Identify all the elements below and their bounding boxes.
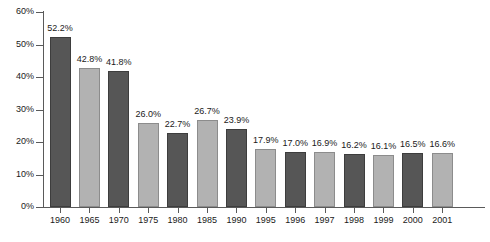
x-axis-tick bbox=[325, 208, 326, 213]
x-axis-tick bbox=[119, 208, 120, 213]
bar-value-label: 23.9% bbox=[219, 116, 253, 125]
x-axis-tick bbox=[60, 208, 61, 213]
y-axis-tick-label: 30% bbox=[0, 105, 34, 115]
bar-value-label: 26.7% bbox=[190, 107, 224, 116]
y-axis-tick-label-text: 30% bbox=[0, 105, 34, 114]
x-axis-tick bbox=[413, 208, 414, 213]
bar bbox=[432, 153, 453, 207]
x-axis-tick bbox=[89, 208, 90, 213]
x-axis-tick bbox=[178, 208, 179, 213]
y-axis-tick-label-text: 0% bbox=[0, 202, 34, 211]
y-axis-tick bbox=[36, 45, 43, 46]
y-axis-tick-label: 50% bbox=[0, 40, 34, 50]
bar bbox=[167, 133, 188, 207]
bar-value-label: 41.8% bbox=[102, 58, 136, 67]
bar bbox=[50, 37, 71, 207]
y-axis-tick bbox=[36, 207, 43, 208]
y-axis-tick-label-text: 10% bbox=[0, 170, 34, 179]
bar bbox=[138, 123, 159, 208]
bar bbox=[226, 129, 247, 207]
y-axis-tick bbox=[36, 77, 43, 78]
y-axis-tick-label-text: 60% bbox=[0, 7, 34, 16]
x-axis-tick bbox=[148, 208, 149, 213]
bar bbox=[79, 68, 100, 207]
bar bbox=[314, 152, 335, 207]
bar bbox=[344, 154, 365, 207]
bar-value-label: 16.6% bbox=[425, 140, 459, 149]
y-axis-tick-label: 20% bbox=[0, 137, 34, 147]
y-axis-tick bbox=[36, 110, 43, 111]
y-axis-tick-label: 60% bbox=[0, 7, 34, 17]
x-axis-tick bbox=[207, 208, 208, 213]
bar-value-label: 22.7% bbox=[161, 120, 195, 129]
y-axis-tick bbox=[36, 175, 43, 176]
bar-value-label: 52.2% bbox=[43, 24, 77, 33]
x-axis-tick bbox=[295, 208, 296, 213]
x-axis-tick bbox=[236, 208, 237, 213]
y-axis-tick-label: 10% bbox=[0, 170, 34, 180]
bar bbox=[108, 71, 129, 207]
x-axis-tick bbox=[383, 208, 384, 213]
x-axis-tick bbox=[266, 208, 267, 213]
y-axis-tick-label-text: 40% bbox=[0, 72, 34, 81]
x-axis-tick bbox=[354, 208, 355, 213]
bar-value-label: 26.0% bbox=[131, 110, 165, 119]
y-axis-tick-label-text: 20% bbox=[0, 137, 34, 146]
bar-chart: 0%10%20%30%40%50%60% 1960196519701975198… bbox=[0, 0, 490, 242]
y-axis-tick bbox=[36, 142, 43, 143]
bar bbox=[255, 149, 276, 207]
bar bbox=[197, 120, 218, 207]
x-axis-line bbox=[43, 207, 485, 208]
y-axis-tick-label: 0% bbox=[0, 202, 34, 212]
x-axis-tick-label: 2001 bbox=[425, 216, 459, 225]
bar bbox=[285, 152, 306, 207]
x-axis-tick bbox=[442, 208, 443, 213]
bar bbox=[373, 155, 394, 207]
y-axis-tick-label-text: 50% bbox=[0, 40, 34, 49]
bar bbox=[402, 153, 423, 207]
y-axis-tick-label: 40% bbox=[0, 72, 34, 82]
y-axis-line bbox=[43, 11, 44, 208]
y-axis-tick bbox=[36, 12, 43, 13]
